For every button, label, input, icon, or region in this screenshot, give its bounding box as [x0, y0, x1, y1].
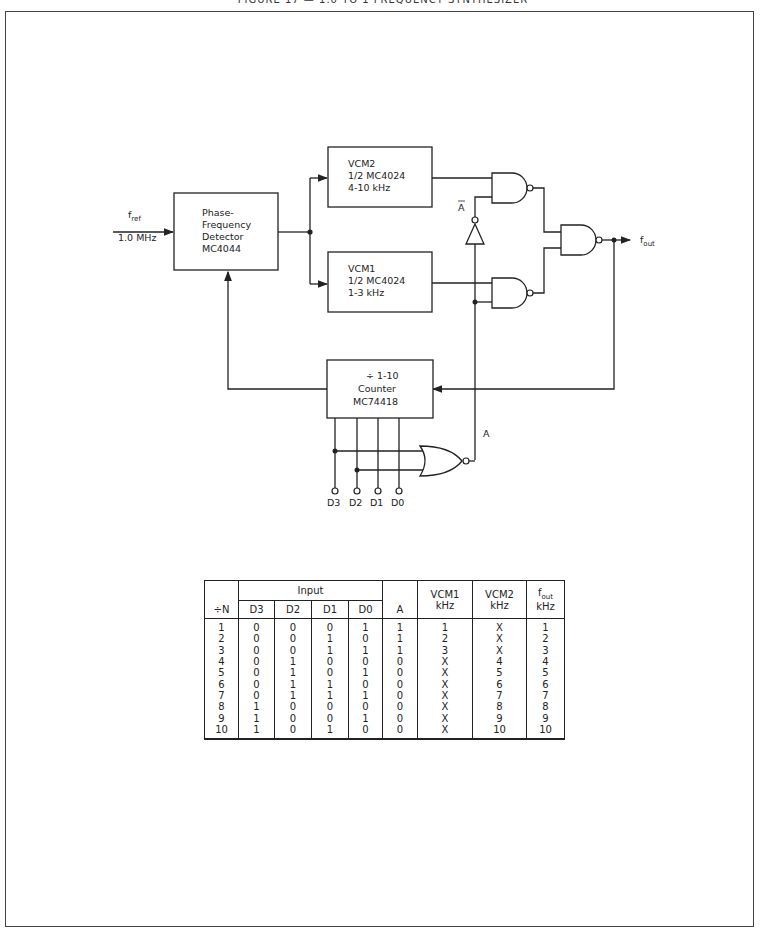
cell-d2: 0: [275, 645, 312, 656]
cell-d2: 1: [275, 690, 312, 701]
cell-d0: 1: [349, 645, 383, 656]
header-vcm1: VCM1kHz: [418, 581, 473, 619]
cell-d0: 0: [349, 633, 383, 644]
cell-d2: 0: [275, 712, 312, 723]
fref-input: fref 1.0 MHz: [113, 209, 173, 243]
cell-fout: 7: [527, 690, 565, 701]
fout-output: fout: [602, 234, 655, 248]
cell-vcm1: X: [418, 701, 473, 712]
cell-vcm1: X: [418, 712, 473, 723]
svg-text:Frequency: Frequency: [202, 219, 251, 230]
cell-d1: 0: [312, 667, 349, 678]
svg-text:Counter: Counter: [358, 383, 396, 394]
svg-text:MC4044: MC4044: [202, 243, 241, 254]
cell-vcm2: 9: [473, 712, 527, 723]
cell-d0: 0: [349, 678, 383, 689]
table-row: 1000111X1: [205, 619, 565, 634]
cell-d1: 0: [312, 712, 349, 723]
cell-n: 8: [205, 701, 239, 712]
cell-d3: 1: [239, 712, 275, 723]
svg-text:fref: fref: [128, 209, 141, 223]
table-row: 3001113X3: [205, 645, 565, 656]
cell-fout: 8: [527, 701, 565, 712]
cell-d1: 0: [312, 701, 349, 712]
cell-d3: 0: [239, 645, 275, 656]
cell-fout: 2: [527, 633, 565, 644]
table-row: 2001012X2: [205, 633, 565, 644]
cell-d2: 0: [275, 633, 312, 644]
table-row: 1010100X1010: [205, 724, 565, 739]
svg-text:1/2 MC4024: 1/2 MC4024: [348, 275, 405, 286]
cell-vcm2: 8: [473, 701, 527, 712]
cell-d0: 0: [349, 724, 383, 739]
svg-text:VCM2: VCM2: [348, 158, 375, 169]
cell-vcm2: X: [473, 619, 527, 634]
cell-d3: 0: [239, 667, 275, 678]
svg-text:1.0 MHz: 1.0 MHz: [118, 232, 156, 243]
cell-a: 0: [383, 712, 418, 723]
cell-fout: 4: [527, 656, 565, 667]
cell-vcm2: X: [473, 633, 527, 644]
cell-vcm2: 10: [473, 724, 527, 739]
cell-n: 6: [205, 678, 239, 689]
cell-d3: 0: [239, 656, 275, 667]
cell-d2: 1: [275, 667, 312, 678]
cell-n: 5: [205, 667, 239, 678]
cell-d0: 0: [349, 656, 383, 667]
cell-d0: 0: [349, 701, 383, 712]
svg-text:Phase-: Phase-: [202, 207, 234, 218]
cell-d0: 1: [349, 667, 383, 678]
cell-vcm1: 2: [418, 633, 473, 644]
header-d2: D2: [275, 601, 312, 619]
header-n: ÷N: [205, 581, 239, 619]
vcm1-block: VCM1 1/2 MC4024 1-3 kHz: [328, 252, 432, 312]
cell-d3: 1: [239, 701, 275, 712]
cell-fout: 5: [527, 667, 565, 678]
svg-text:÷ 1-10: ÷ 1-10: [366, 370, 399, 381]
cell-a: 1: [383, 619, 418, 634]
header-fout: foutkHz: [527, 581, 565, 619]
cell-d1: 1: [312, 633, 349, 644]
inverter-gate: A: [458, 197, 492, 244]
table-row: 910010X99: [205, 712, 565, 723]
cell-vcm2: 7: [473, 690, 527, 701]
cell-n: 10: [205, 724, 239, 739]
table-row: 601100X66: [205, 678, 565, 689]
header-d0: D0: [349, 601, 383, 619]
cell-fout: 3: [527, 645, 565, 656]
cell-fout: 6: [527, 678, 565, 689]
cell-d3: 1: [239, 724, 275, 739]
cell-n: 1: [205, 619, 239, 634]
header-a: A: [383, 581, 418, 619]
svg-text:1-3 kHz: 1-3 kHz: [348, 287, 384, 298]
nand-gate-top: [492, 173, 533, 203]
truth-table: ÷N Input A VCM1kHz VCM2kHz foutkHz D3 D2…: [204, 580, 565, 740]
cell-d3: 0: [239, 678, 275, 689]
svg-text:D3: D3: [327, 497, 340, 508]
cell-n: 3: [205, 645, 239, 656]
svg-text:D1: D1: [370, 497, 383, 508]
cell-vcm2: 5: [473, 667, 527, 678]
phase-frequency-detector-block: Phase- Frequency Detector MC4044: [174, 193, 278, 270]
cell-d1: 1: [312, 724, 349, 739]
cell-d1: 0: [312, 619, 349, 634]
header-d3: D3: [239, 601, 275, 619]
cell-a: 0: [383, 678, 418, 689]
cell-d0: 1: [349, 690, 383, 701]
cell-vcm1: 3: [418, 645, 473, 656]
vcm2-block: VCM2 1/2 MC4024 4-10 kHz: [328, 147, 432, 207]
cell-a: 0: [383, 667, 418, 678]
table-row: 401000X44: [205, 656, 565, 667]
cell-d3: 0: [239, 619, 275, 634]
cell-d1: 1: [312, 645, 349, 656]
cell-vcm1: 1: [418, 619, 473, 634]
cell-n: 9: [205, 712, 239, 723]
cell-a: 0: [383, 701, 418, 712]
cell-fout: 10: [527, 724, 565, 739]
svg-text:4-10 kHz: 4-10 kHz: [348, 182, 390, 193]
cell-vcm2: 4: [473, 656, 527, 667]
cell-d2: 0: [275, 701, 312, 712]
svg-text:1/2 MC4024: 1/2 MC4024: [348, 170, 405, 181]
cell-d1: 0: [312, 656, 349, 667]
header-vcm2: VCM2kHz: [473, 581, 527, 619]
